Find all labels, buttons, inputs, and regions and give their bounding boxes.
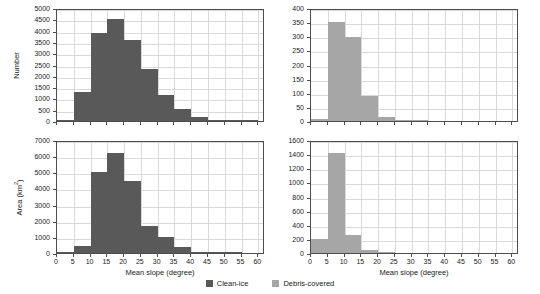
gridline-vertical — [512, 142, 513, 253]
legend-swatch-icon — [272, 280, 279, 287]
gridline-vertical — [496, 142, 497, 253]
x-tick-mark — [394, 254, 395, 257]
histogram-bar — [328, 153, 345, 253]
gridline-vertical — [395, 142, 396, 253]
y-tick-label: 800 — [270, 194, 304, 202]
gridline-vertical — [428, 142, 429, 253]
y-tick-label: 1600 — [270, 137, 304, 145]
y-tick-mark — [307, 198, 310, 199]
x-tick-mark — [444, 254, 445, 257]
x-tick-mark — [360, 254, 361, 257]
legend-item-debris: Debris-covered — [272, 279, 334, 288]
x-tick-mark — [377, 254, 378, 257]
legend-label: Debris-covered — [283, 279, 334, 288]
y-tick-mark — [307, 212, 310, 213]
legend-label: Clean-ice — [217, 279, 249, 288]
y-tick-mark — [307, 183, 310, 184]
legend-swatch-icon — [206, 280, 213, 287]
y-tick-label: 200 — [270, 236, 304, 244]
histogram-bar — [378, 252, 395, 253]
y-tick-label: 400 — [270, 222, 304, 230]
y-tick-mark — [307, 226, 310, 227]
y-tick-mark — [307, 169, 310, 170]
slope-histogram-figure: 0500100015002000250030003500400045005000… — [0, 0, 540, 294]
y-tick-label: 1200 — [270, 165, 304, 173]
histogram-bar — [345, 235, 362, 253]
gridline-vertical — [412, 142, 413, 253]
x-tick-mark — [427, 254, 428, 257]
x-tick-mark — [511, 254, 512, 257]
x-tick-mark — [478, 254, 479, 257]
x-tick-mark — [411, 254, 412, 257]
y-tick-mark — [307, 155, 310, 156]
x-tick-label: 60 — [500, 258, 522, 266]
histogram-bar — [311, 239, 328, 253]
y-tick-label: 0 — [270, 250, 304, 258]
legend: Clean-iceDebris-covered — [0, 276, 540, 290]
y-tick-mark — [307, 141, 310, 142]
x-tick-mark — [310, 254, 311, 257]
gridline-horizontal — [311, 142, 517, 143]
x-tick-mark — [461, 254, 462, 257]
x-tick-mark — [327, 254, 328, 257]
y-tick-mark — [307, 240, 310, 241]
plot-area-bottom-right — [310, 141, 518, 254]
histogram-bar — [361, 250, 378, 253]
x-tick-mark — [344, 254, 345, 257]
gridline-vertical — [445, 142, 446, 253]
panel-bottom-right-area-debris: 0200400600800100012001400160005101520253… — [0, 0, 540, 294]
legend-item-clean: Clean-ice — [206, 279, 249, 288]
gridline-vertical — [378, 142, 379, 253]
x-tick-mark — [495, 254, 496, 257]
gridline-vertical — [479, 142, 480, 253]
y-tick-label: 1400 — [270, 151, 304, 159]
y-tick-label: 1000 — [270, 179, 304, 187]
gridline-vertical — [462, 142, 463, 253]
y-tick-label: 600 — [270, 208, 304, 216]
